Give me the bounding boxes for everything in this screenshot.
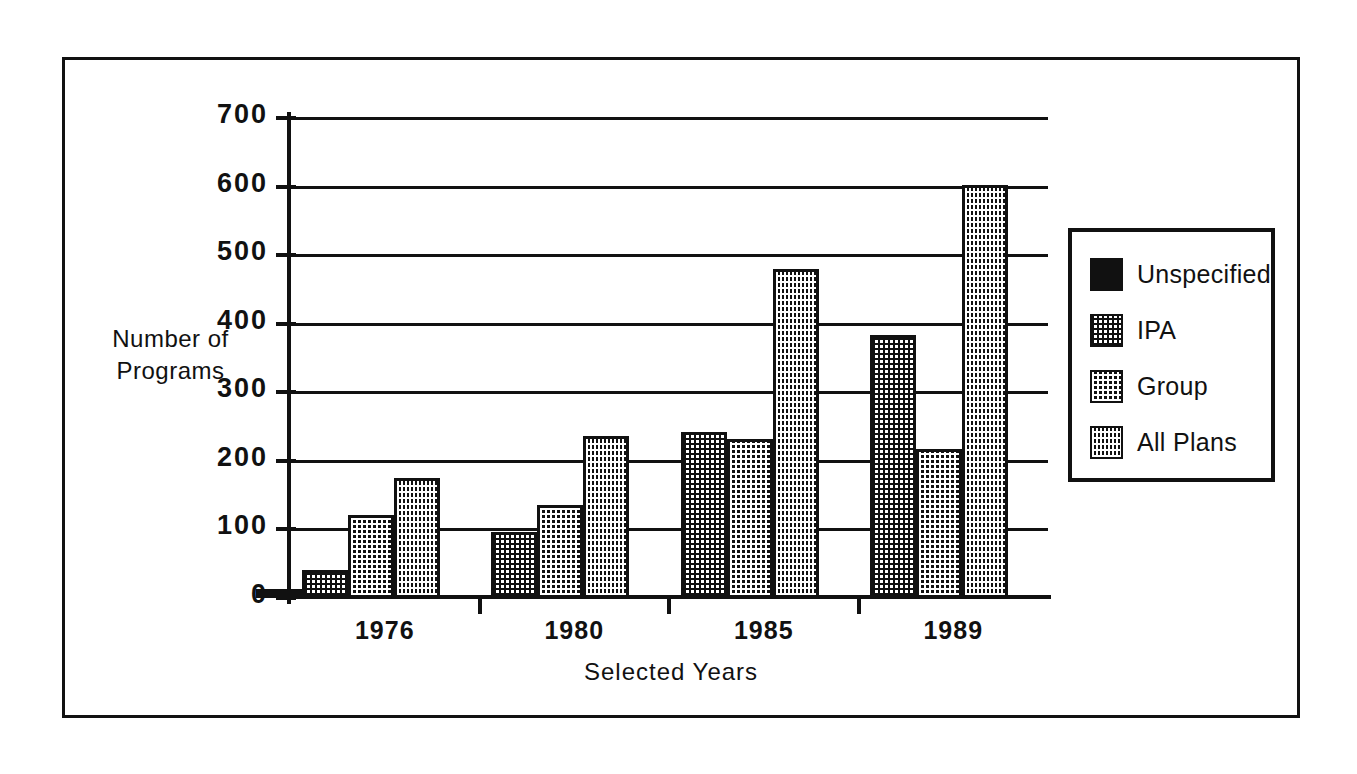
plot-area: [290, 118, 1048, 598]
bar: [681, 432, 727, 598]
bar: [348, 515, 394, 598]
x-axis-title-label: Selected Years: [584, 658, 758, 685]
bar: [256, 589, 302, 598]
legend-item: Unspecified: [1090, 246, 1271, 302]
x-axis-tick: [857, 598, 861, 614]
x-axis-tick-label: 1989: [859, 616, 1049, 645]
y-axis-tick-label: 400: [150, 305, 268, 336]
legend-swatch-icon: [1090, 314, 1123, 347]
bar: [962, 185, 1008, 598]
legend-item: Group: [1090, 358, 1271, 414]
legend-item: IPA: [1090, 302, 1271, 358]
bar: [773, 269, 819, 598]
y-axis-tick-label: 500: [150, 236, 268, 267]
x-axis-tick-label: 1976: [290, 616, 480, 645]
y-axis-tick-label: 200: [150, 442, 268, 473]
chart-legend: UnspecifiedIPAGroupAll Plans: [1068, 228, 1275, 482]
legend-item-label: Unspecified: [1137, 260, 1271, 289]
x-axis-tick: [667, 598, 671, 614]
x-axis-tick-label: 1985: [669, 616, 859, 645]
x-axis-tick-label: 1980: [480, 616, 670, 645]
y-axis-tick-label: 600: [150, 168, 268, 199]
legend-swatch-icon: [1090, 258, 1123, 291]
bar: [870, 335, 916, 598]
bar: [916, 449, 962, 598]
legend-item-label: IPA: [1137, 316, 1176, 345]
legend-item: All Plans: [1090, 414, 1271, 470]
x-axis-tick: [478, 598, 482, 614]
bar: [537, 505, 583, 598]
y-axis-tick-label: 700: [150, 99, 268, 130]
legend-item-label: Group: [1137, 372, 1208, 401]
legend-swatch-icon: [1090, 370, 1123, 403]
bar: [727, 439, 773, 598]
legend-swatch-icon: [1090, 426, 1123, 459]
bar: [394, 478, 440, 598]
legend-item-label: All Plans: [1137, 428, 1237, 457]
bar: [491, 532, 537, 599]
x-axis-title: Selected Years: [65, 658, 1297, 686]
y-axis-tick-label: 100: [150, 510, 268, 541]
y-axis-tick-label: 0: [150, 579, 268, 610]
bar: [583, 436, 629, 598]
bar: [302, 570, 348, 598]
y-axis-tick-label: 300: [150, 373, 268, 404]
